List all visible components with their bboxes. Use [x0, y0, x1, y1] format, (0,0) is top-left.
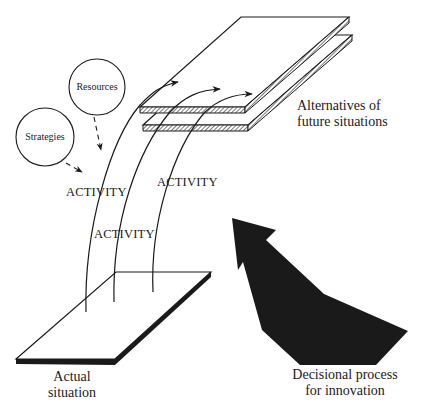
- strategies-node: Strategies: [16, 108, 74, 166]
- strategies-label: Strategies: [25, 131, 65, 142]
- resources-label: Resources: [76, 81, 117, 92]
- future-label-line2: future situations: [297, 114, 388, 129]
- activity-label-2: ACTIVITY: [157, 175, 218, 189]
- actual-label-line1: Actual: [53, 369, 90, 384]
- resources-node: Resources: [69, 59, 125, 115]
- activity-label-3: ACTIVITY: [94, 227, 155, 241]
- actual-label-line2: situation: [48, 385, 96, 400]
- decisional-label-line1: Decisional process: [292, 367, 397, 382]
- innovation-diagram: Resources Strategies ACTIVITY ACTIVITY A…: [0, 0, 427, 413]
- actual-label: Actual situation: [48, 369, 96, 400]
- resources-arrow: [94, 117, 101, 150]
- activity-label-1: ACTIVITY: [66, 185, 127, 199]
- decisional-label: Decisional process for innovation: [292, 367, 397, 398]
- future-label-line1: Alternatives of: [297, 98, 381, 113]
- future-label: Alternatives of future situations: [297, 98, 388, 129]
- strategies-arrow: [66, 163, 82, 172]
- decisional-process-arrow-icon: [232, 218, 408, 365]
- decisional-label-line2: for innovation: [305, 383, 385, 398]
